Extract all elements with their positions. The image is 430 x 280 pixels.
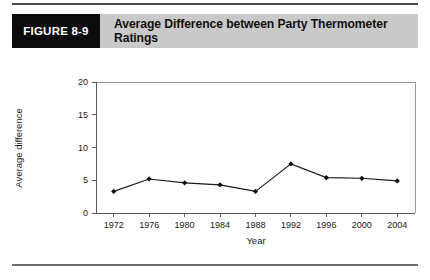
top-divider-rule: [12, 3, 418, 5]
line-chart-svg: 05101520 1972197619801984198819921996200…: [0, 56, 430, 256]
y-axis-title: Average difference: [13, 108, 24, 187]
y-axis-tick-labels: 05101520: [78, 77, 88, 218]
data-point-marker: [395, 178, 400, 183]
figure-number-tag: FIGURE 8-9: [12, 14, 100, 48]
data-point-marker: [147, 176, 152, 181]
x-tick-label: 1980: [175, 220, 195, 230]
x-axis-ticks: [114, 213, 398, 217]
x-tick-label: 1988: [245, 220, 265, 230]
data-point-marker: [182, 180, 187, 185]
y-tick-label: 5: [83, 175, 88, 185]
data-point-markers: [111, 161, 400, 194]
x-axis-tick-labels: 197219761980198419881992199620002004: [104, 220, 408, 230]
figure-title: Average Difference between Party Thermom…: [100, 14, 418, 48]
figure-header-band: FIGURE 8-9 Average Difference between Pa…: [12, 14, 418, 48]
x-tick-label: 1992: [281, 220, 301, 230]
data-series-line: [114, 164, 398, 192]
bottom-divider-rule: [12, 264, 418, 266]
data-point-marker: [359, 176, 364, 181]
data-point-marker: [111, 189, 116, 194]
data-point-marker: [217, 182, 222, 187]
figure-container: FIGURE 8-9 Average Difference between Pa…: [0, 0, 430, 280]
x-tick-label: 1976: [139, 220, 159, 230]
y-tick-label: 10: [78, 143, 88, 153]
y-tick-label: 15: [78, 110, 88, 120]
x-tick-label: 2004: [387, 220, 407, 230]
y-axis-ticks: [92, 82, 96, 213]
chart-area: 05101520 1972197619801984198819921996200…: [0, 56, 430, 256]
x-axis-title: Year: [246, 235, 265, 246]
x-tick-label: 2000: [352, 220, 372, 230]
x-tick-label: 1972: [104, 220, 124, 230]
data-point-marker: [324, 175, 329, 180]
x-tick-label: 1996: [316, 220, 336, 230]
y-tick-label: 0: [83, 208, 88, 218]
x-tick-label: 1984: [210, 220, 230, 230]
y-tick-label: 20: [78, 77, 88, 87]
